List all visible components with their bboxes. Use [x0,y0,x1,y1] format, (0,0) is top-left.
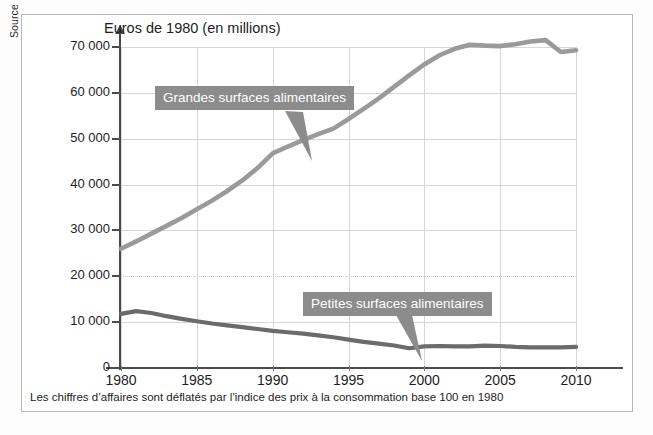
chart-figure: Source : Insee, 2012. Euros de 1980 (en … [0,0,653,435]
annotation-grandes-pointer-icon [285,111,335,163]
annotation-petites-pointer-icon [396,315,436,363]
figure-caption: Les chiffres d’affaires sont déflatés pa… [30,391,503,403]
annotation-petites-label: Petites surfaces alimentaires [303,292,492,316]
line-petites-surfaces-alimentaires [121,311,576,348]
series-layer [0,0,653,435]
line-grandes-surfaces-alimentaires [121,40,576,249]
annotation-grandes-surfaces: Grandes surfaces alimentaires [155,86,354,110]
annotation-petites-surfaces: Petites surfaces alimentaires [303,292,492,316]
annotation-grandes-label: Grandes surfaces alimentaires [155,86,354,110]
